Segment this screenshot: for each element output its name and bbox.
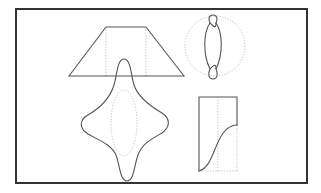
star-guide-ellipse [111, 90, 137, 156]
s-curve-box-shape [199, 97, 237, 171]
four-point-star-shape [81, 59, 168, 181]
diagram-svg [0, 0, 321, 193]
twisted-loop-shape [185, 15, 245, 79]
diagram-canvas [0, 0, 321, 193]
trapezoid-shape [69, 27, 184, 76]
trapezoid-outline [69, 27, 184, 76]
outer-frame [16, 9, 307, 183]
star-outline [81, 59, 168, 181]
twisted-loop-crossings [210, 23, 216, 69]
twisted-loop-guide-circle [185, 16, 245, 76]
twisted-loop-outer [205, 15, 222, 79]
